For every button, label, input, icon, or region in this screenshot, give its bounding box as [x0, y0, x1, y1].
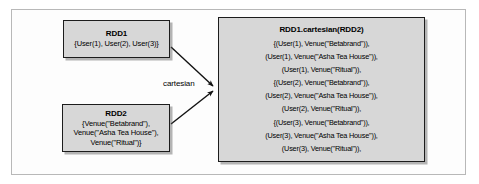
node-rdd2-body: {Venue("Betabrand"), Venue("Asha Tea Hou…	[74, 119, 159, 147]
node-cartesian-result-body: {(User(1), Venue("Betabrand")), (User(1)…	[265, 37, 377, 155]
diagram-canvas: RDD1 {User(1), User(2), User(3)} RDD2 {V…	[0, 0, 479, 184]
node-rdd2-title: RDD2	[105, 109, 126, 119]
node-rdd1-title: RDD1	[106, 29, 127, 39]
node-rdd2: RDD2 {Venue("Betabrand"), Venue("Asha Te…	[62, 104, 170, 152]
node-cartesian-result-title: RDD1.cartesian(RDD2)	[279, 25, 363, 35]
node-rdd1: RDD1 {User(1), User(2), User(3)}	[63, 20, 170, 58]
edge-label-cartesian: cartesian	[163, 79, 195, 89]
node-cartesian-result: RDD1.cartesian(RDD2) {(User(1), Venue("B…	[218, 17, 425, 162]
node-rdd1-body: {User(1), User(2), User(3)}	[74, 39, 158, 48]
